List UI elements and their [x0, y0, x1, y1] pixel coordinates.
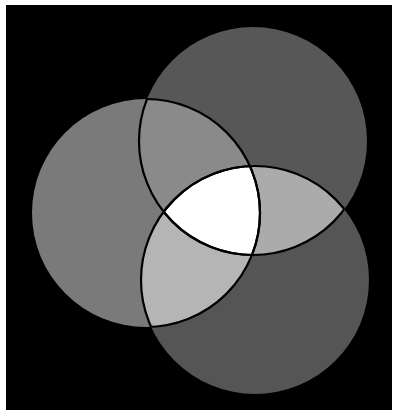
venn-diagram-frame [0, 0, 400, 414]
venn-diagram [0, 0, 400, 414]
